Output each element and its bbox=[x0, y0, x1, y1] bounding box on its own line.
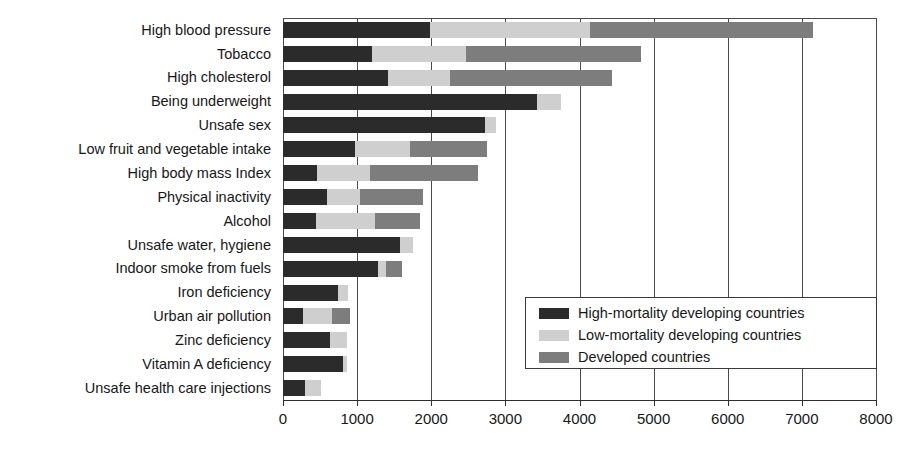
bar-segment[interactable] bbox=[430, 22, 590, 38]
x-axis-tick bbox=[357, 400, 358, 406]
bar-segment[interactable] bbox=[386, 261, 402, 277]
bar-segment[interactable] bbox=[283, 70, 388, 86]
bar-row[interactable] bbox=[283, 213, 420, 229]
legend-label: Developed countries bbox=[578, 350, 710, 365]
bar-segment[interactable] bbox=[283, 22, 430, 38]
bar-segment[interactable] bbox=[410, 141, 487, 157]
y-axis-label: Low fruit and vegetable intake bbox=[0, 137, 277, 161]
bar-segment[interactable] bbox=[283, 213, 316, 229]
x-axis-tick bbox=[728, 400, 729, 406]
bar-segment[interactable] bbox=[400, 237, 413, 253]
x-axis-tick-label: 8000 bbox=[859, 410, 892, 427]
bar-segment[interactable] bbox=[283, 332, 330, 348]
bar-segment[interactable] bbox=[450, 70, 612, 86]
bar-row[interactable] bbox=[283, 380, 321, 396]
bar-segment[interactable] bbox=[283, 46, 372, 62]
x-axis-tick-label: 4000 bbox=[563, 410, 596, 427]
y-axis-label: Tobacco bbox=[0, 42, 277, 66]
x-axis-tick bbox=[802, 400, 803, 406]
bar-segment[interactable] bbox=[283, 261, 378, 277]
bar-row[interactable] bbox=[283, 94, 561, 110]
legend-swatch-icon bbox=[539, 308, 569, 319]
bar-segment[interactable] bbox=[590, 22, 813, 38]
bar-segment[interactable] bbox=[283, 356, 343, 372]
bar-segment[interactable] bbox=[305, 380, 321, 396]
y-axis-label: Unsafe water, hygiene bbox=[0, 233, 277, 257]
bar-row[interactable] bbox=[283, 141, 487, 157]
bar-segment[interactable] bbox=[466, 46, 641, 62]
y-axis-label: Iron deficiency bbox=[0, 281, 277, 305]
bar-segment[interactable] bbox=[303, 308, 332, 324]
x-axis-tick bbox=[283, 400, 284, 406]
bar-segment[interactable] bbox=[485, 117, 496, 133]
bar-segment[interactable] bbox=[327, 189, 360, 205]
y-axis-label: Being underweight bbox=[0, 90, 277, 114]
x-axis-tick-label: 3000 bbox=[489, 410, 522, 427]
x-axis-tick-label: 0 bbox=[279, 410, 287, 427]
risk-factor-stacked-bar-chart: High blood pressureTobaccoHigh cholester… bbox=[0, 0, 922, 461]
bar-segment[interactable] bbox=[283, 141, 355, 157]
legend-item[interactable]: Low-mortality developing countries bbox=[539, 325, 876, 346]
y-axis-label: Unsafe sex bbox=[0, 114, 277, 138]
legend-swatch-icon bbox=[539, 352, 569, 363]
x-axis-tick-label: 5000 bbox=[637, 410, 670, 427]
bar-row[interactable] bbox=[283, 237, 413, 253]
y-axis-label: Alcohol bbox=[0, 209, 277, 233]
x-axis-tick-label: 6000 bbox=[711, 410, 744, 427]
bar-segment[interactable] bbox=[343, 356, 347, 372]
bar-segment[interactable] bbox=[338, 285, 348, 301]
y-axis-category-labels: High blood pressureTobaccoHigh cholester… bbox=[0, 18, 277, 400]
x-axis-tick bbox=[876, 400, 877, 406]
bar-segment[interactable] bbox=[330, 332, 346, 348]
bar-row[interactable] bbox=[283, 285, 348, 301]
bar-segment[interactable] bbox=[317, 165, 370, 181]
bar-segment[interactable] bbox=[283, 165, 317, 181]
x-axis-tick bbox=[654, 400, 655, 406]
bar-segment[interactable] bbox=[360, 189, 423, 205]
y-axis-label: Indoor smoke from fuels bbox=[0, 257, 277, 281]
legend-swatch-icon bbox=[539, 330, 569, 341]
y-axis-label: Vitamin A deficiency bbox=[0, 352, 277, 376]
y-axis-label: Urban air pollution bbox=[0, 305, 277, 329]
bar-row[interactable] bbox=[283, 70, 612, 86]
bar-segment[interactable] bbox=[283, 285, 338, 301]
bar-row[interactable] bbox=[283, 165, 478, 181]
bar-row[interactable] bbox=[283, 189, 423, 205]
bar-row[interactable] bbox=[283, 308, 350, 324]
bar-segment[interactable] bbox=[370, 165, 478, 181]
bar-segment[interactable] bbox=[372, 46, 466, 62]
y-axis-label: Unsafe health care injections bbox=[0, 376, 277, 400]
bar-row[interactable] bbox=[283, 46, 641, 62]
legend-item[interactable]: Developed countries bbox=[539, 347, 876, 368]
bar-segment[interactable] bbox=[283, 308, 303, 324]
bar-segment[interactable] bbox=[375, 213, 420, 229]
bar-row[interactable] bbox=[283, 332, 347, 348]
bar-segment[interactable] bbox=[332, 308, 350, 324]
y-axis-label: High cholesterol bbox=[0, 66, 277, 90]
legend-item[interactable]: High-mortality developing countries bbox=[539, 303, 876, 324]
y-axis-label: High body mass Index bbox=[0, 161, 277, 185]
bar-row[interactable] bbox=[283, 356, 347, 372]
x-axis-tick bbox=[580, 400, 581, 406]
bar-segment[interactable] bbox=[283, 117, 485, 133]
bar-segment[interactable] bbox=[283, 237, 400, 253]
bar-segment[interactable] bbox=[316, 213, 375, 229]
bar-segment[interactable] bbox=[283, 94, 537, 110]
bar-segment[interactable] bbox=[537, 94, 561, 110]
y-axis-label: Physical inactivity bbox=[0, 185, 277, 209]
bar-row[interactable] bbox=[283, 261, 402, 277]
x-axis-tick-label: 2000 bbox=[415, 410, 448, 427]
bar-row[interactable] bbox=[283, 117, 496, 133]
bar-segment[interactable] bbox=[378, 261, 386, 277]
x-axis-tick bbox=[505, 400, 506, 406]
legend-label: High-mortality developing countries bbox=[578, 306, 804, 321]
bar-segment[interactable] bbox=[283, 380, 305, 396]
x-axis-tick-label: 7000 bbox=[785, 410, 818, 427]
x-axis-tick-label: 1000 bbox=[340, 410, 373, 427]
bar-segment[interactable] bbox=[355, 141, 410, 157]
bar-segment[interactable] bbox=[388, 70, 450, 86]
legend-label: Low-mortality developing countries bbox=[578, 328, 801, 343]
x-axis-tick bbox=[431, 400, 432, 406]
bar-segment[interactable] bbox=[283, 189, 327, 205]
bar-row[interactable] bbox=[283, 22, 813, 38]
